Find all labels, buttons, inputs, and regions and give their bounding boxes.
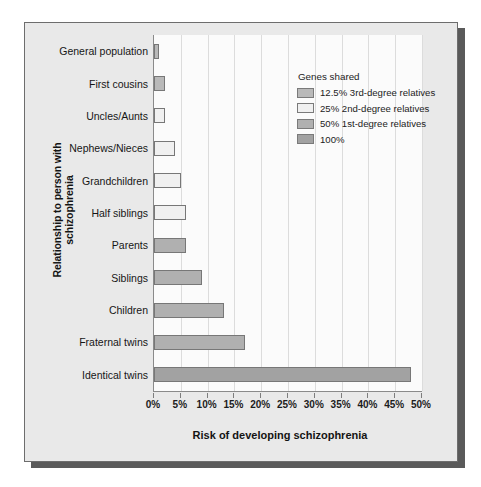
bar bbox=[154, 108, 165, 123]
legend-entries: 12.5% 3rd-degree relatives25% 2nd-degree… bbox=[297, 87, 435, 145]
legend-label: 50% 1st-degree relatives bbox=[320, 118, 426, 129]
bar-row: General population bbox=[154, 35, 422, 67]
bar bbox=[154, 335, 245, 350]
x-tick-mark bbox=[314, 393, 315, 398]
bar bbox=[154, 44, 159, 59]
x-tick-label: 40% bbox=[357, 399, 377, 410]
legend: Genes shared 12.5% 3rd-degree relatives2… bbox=[297, 71, 435, 149]
x-tick-mark bbox=[367, 393, 368, 398]
x-tick-label: 5% bbox=[173, 399, 187, 410]
y-axis-tick-label: Siblings bbox=[111, 272, 148, 284]
bar-row: Half siblings bbox=[154, 197, 422, 229]
bar-row: Grandchildren bbox=[154, 164, 422, 196]
bar-row: Children bbox=[154, 294, 422, 326]
x-tick-label: 45% bbox=[384, 399, 404, 410]
bar bbox=[154, 76, 165, 91]
legend-swatch bbox=[297, 88, 314, 98]
legend-item: 12.5% 3rd-degree relatives bbox=[297, 87, 435, 98]
x-tick-label: 50% bbox=[411, 399, 431, 410]
x-tick-mark bbox=[341, 393, 342, 398]
bar bbox=[154, 205, 186, 220]
legend-item: 50% 1st-degree relatives bbox=[297, 118, 435, 129]
x-tick-label: 15% bbox=[223, 399, 243, 410]
x-tick-label: 10% bbox=[197, 399, 217, 410]
x-tick-label: 25% bbox=[277, 399, 297, 410]
bar bbox=[154, 141, 175, 156]
y-axis-tick-label: Uncles/Aunts bbox=[86, 110, 148, 122]
x-tick-label: 30% bbox=[304, 399, 324, 410]
y-axis-tick-label: Children bbox=[109, 304, 148, 316]
bar bbox=[154, 238, 186, 253]
bar-row: Identical twins bbox=[154, 359, 422, 391]
bar-row: Siblings bbox=[154, 262, 422, 294]
x-tick-mark bbox=[207, 393, 208, 398]
x-tick-mark bbox=[233, 393, 234, 398]
y-axis-tick-label: Half siblings bbox=[91, 207, 148, 219]
y-axis-tick-label: General population bbox=[59, 45, 148, 57]
x-tick-mark bbox=[180, 393, 181, 398]
y-axis-tick-label: Fraternal twins bbox=[79, 336, 148, 348]
bar bbox=[154, 270, 202, 285]
y-axis-title: Relationship to person with schizophreni… bbox=[51, 110, 75, 310]
x-tick-mark bbox=[394, 393, 395, 398]
bar bbox=[154, 303, 224, 318]
legend-item: 100% bbox=[297, 134, 435, 145]
chart-figure: Relationship to person with schizophreni… bbox=[0, 0, 481, 487]
bar bbox=[154, 173, 181, 188]
legend-label: 12.5% 3rd-degree relatives bbox=[320, 87, 435, 98]
x-tick-mark bbox=[287, 393, 288, 398]
y-axis-tick-label: Grandchildren bbox=[82, 175, 148, 187]
x-axis-title: Risk of developing schizophrenia bbox=[125, 429, 435, 441]
y-axis-tick-label: Parents bbox=[112, 239, 148, 251]
y-axis-tick-label: Identical twins bbox=[82, 369, 148, 381]
y-axis-tick-label: First cousins bbox=[89, 78, 148, 90]
x-tick-label: 35% bbox=[331, 399, 351, 410]
x-tick-label: 20% bbox=[250, 399, 270, 410]
legend-swatch bbox=[297, 119, 314, 129]
bar-row: Fraternal twins bbox=[154, 326, 422, 358]
y-axis-tick-label: Nephews/Nieces bbox=[69, 142, 148, 154]
legend-label: 100% bbox=[320, 134, 345, 145]
x-tick-mark bbox=[421, 393, 422, 398]
x-tick-mark bbox=[153, 393, 154, 398]
x-tick-label: 0% bbox=[146, 399, 160, 410]
legend-title: Genes shared bbox=[297, 71, 435, 82]
legend-label: 25% 2nd-degree relatives bbox=[320, 103, 429, 114]
legend-swatch bbox=[297, 103, 314, 113]
x-tick-mark bbox=[260, 393, 261, 398]
bar-row: Parents bbox=[154, 229, 422, 261]
legend-swatch bbox=[297, 134, 314, 144]
bar bbox=[154, 367, 411, 382]
figure-panel: Relationship to person with schizophreni… bbox=[24, 22, 458, 462]
x-axis-ticks: 0%5%10%15%20%25%30%35%40%45%50% bbox=[153, 393, 421, 417]
legend-item: 25% 2nd-degree relatives bbox=[297, 103, 435, 114]
